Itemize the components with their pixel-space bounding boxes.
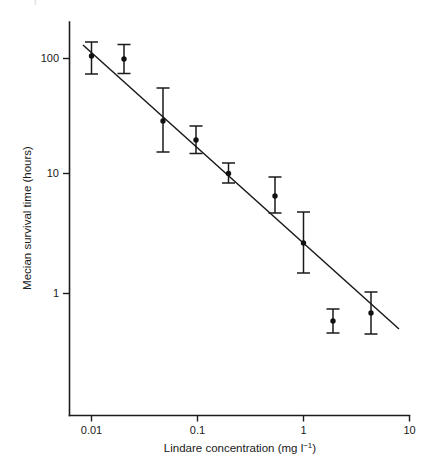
y-axis-tick-labels: 100 10 1 [41, 52, 59, 299]
fit-line [83, 45, 399, 329]
y-axis-title: Mecian survival time (hours) [21, 146, 33, 290]
axes-group [70, 22, 410, 416]
data-point-group [190, 126, 203, 154]
figure-panel: j . 100 10 1 [0, 0, 435, 466]
y-tick-label-100: 100 [41, 52, 59, 64]
data-point-group [118, 45, 131, 74]
x-tick-label-10: 10 [403, 424, 415, 436]
data-marker [272, 193, 277, 198]
x-axis-title: Lindare concentration (mg l−1) [164, 441, 316, 454]
data-point-group [85, 42, 98, 74]
log-log-scatter-chart: 100 10 1 0.01 0.1 1 10 Lindare concentra… [0, 0, 435, 466]
data-marker [89, 53, 94, 58]
y-tick-label-10: 10 [47, 167, 59, 179]
x-tick-label-0.1: 0.1 [190, 424, 205, 436]
data-marker [160, 118, 165, 123]
y-tick-label-1: 1 [53, 287, 59, 299]
y-axis-ticks [63, 59, 70, 294]
x-tick-label-1: 1 [300, 424, 306, 436]
x-axis-title-main: Lindare concentration (mg l [164, 442, 303, 454]
data-marker [121, 56, 126, 61]
data-marker [301, 240, 306, 245]
data-marker [330, 318, 335, 323]
x-tick-label-0.01: 0.01 [81, 424, 102, 436]
data-marker [193, 137, 198, 142]
x-axis-ticks [92, 416, 410, 422]
data-point-group [365, 292, 378, 334]
data-point-group [269, 177, 282, 213]
data-marker [226, 171, 231, 176]
x-axis-tick-labels: 0.01 0.1 1 10 [81, 424, 416, 436]
x-axis-title-suffix: ) [312, 442, 316, 454]
data-point-group [327, 309, 340, 333]
data-marker [368, 310, 373, 315]
data-point-group [297, 212, 310, 273]
